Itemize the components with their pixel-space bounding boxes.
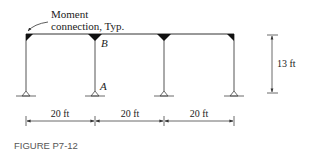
pin-support-icon — [224, 91, 244, 96]
height-dimension-label: 13 ft — [277, 58, 296, 69]
annotation-line-1: Moment — [51, 8, 88, 20]
moment-connection-icon — [88, 34, 102, 41]
pin-supports — [16, 91, 244, 96]
frame-columns — [26, 34, 234, 91]
annotation-line-2: connection, Typ. — [51, 20, 125, 32]
moment-connection-icon — [157, 34, 171, 41]
span-dimension-label-1: 20 ft — [51, 108, 70, 119]
point-label-a: A — [99, 80, 107, 92]
annotation-leader-icon — [28, 22, 48, 31]
point-label-b: B — [101, 37, 108, 49]
figure-caption: FIGURE P7-12 — [14, 140, 78, 151]
span-dimension-label-2: 20 ft — [121, 108, 140, 119]
pin-support-icon — [16, 91, 36, 96]
span-dimension-label-3: 20 ft — [190, 108, 209, 119]
frame-diagram: Moment connection, Typ. B A 20 ft 20 ft … — [0, 0, 311, 151]
moment-connections — [26, 34, 234, 41]
moment-connection-icon — [227, 34, 234, 41]
moment-connection-icon — [26, 34, 33, 41]
pin-support-icon — [154, 91, 174, 96]
